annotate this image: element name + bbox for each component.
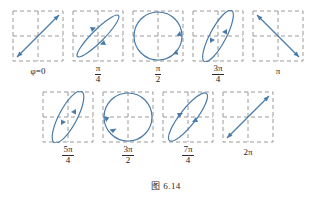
plot-phase-0 <box>12 10 64 62</box>
panel-label-phase-7pi-4: 7π 4 <box>154 145 222 165</box>
panel-phase-3pi-4: 3π 4 <box>192 10 244 62</box>
panel-row-bottom: 5π 4 3π 2 <box>42 91 274 143</box>
panel-phase-pi: π <box>252 10 304 62</box>
arrowhead-icon <box>110 129 117 134</box>
plot-phase-3pi-4 <box>192 10 244 62</box>
plot-phase-7pi-4 <box>162 91 214 143</box>
fraction: 3π 2 <box>121 145 134 165</box>
panel-label-phase-3pi-2: 3π 2 <box>94 145 162 165</box>
plot-phase-3pi-2 <box>102 91 154 143</box>
fraction-denominator: 2 <box>121 156 134 165</box>
panel-phase-3pi-2: 3π 2 <box>102 91 154 143</box>
fraction: 7π 4 <box>181 145 194 165</box>
plot-phase-pi <box>252 10 304 62</box>
fraction-numerator: 3π <box>121 145 134 154</box>
fraction-denominator: 4 <box>94 75 103 84</box>
fraction-denominator: 4 <box>211 75 224 84</box>
fraction-denominator: 4 <box>181 156 194 165</box>
plot-phase-5pi-4 <box>42 91 94 143</box>
arrowhead-icon <box>61 120 66 126</box>
lissajous-figure: φ=0 π 4 <box>0 0 332 201</box>
fraction-numerator: 5π <box>61 145 74 154</box>
arrowhead-icon <box>222 29 227 35</box>
fraction-numerator: π <box>154 64 163 73</box>
panel-label-phase-pi-4: π 4 <box>64 64 132 84</box>
arrowhead-icon <box>71 109 76 115</box>
plot-phase-pi-2 <box>132 10 184 62</box>
panel-phase-pi-2: π 2 <box>132 10 184 62</box>
plot-phase-2pi <box>222 91 274 143</box>
fraction-denominator: 2 <box>154 75 163 84</box>
panel-label-phase-5pi-4: 5π 4 <box>34 145 102 165</box>
fraction-denominator: 4 <box>61 156 74 165</box>
fraction-numerator: 7π <box>181 145 194 154</box>
fraction: 5π 4 <box>61 145 74 165</box>
fraction: π 2 <box>154 64 163 84</box>
panel-phase-pi-4: π 4 <box>72 10 124 62</box>
panel-phase-7pi-4: 7π 4 <box>162 91 214 143</box>
panel-label-phase-pi-2: π 2 <box>124 64 192 84</box>
panel-label-phase-3pi-4: 3π 4 <box>184 64 252 84</box>
panel-label-phase-pi: π <box>244 64 312 76</box>
fraction-numerator: 3π <box>211 64 224 73</box>
panel-label-phase-0: φ=0 <box>4 64 72 76</box>
panel-phase-5pi-4: 5π 4 <box>42 91 94 143</box>
panel-phase-0: φ=0 <box>12 10 64 62</box>
arrowhead-icon <box>104 117 109 123</box>
fraction: π 4 <box>94 64 103 84</box>
panel-label-phase-2pi: 2π <box>214 145 282 157</box>
panel-phase-2pi: 2π <box>222 91 274 143</box>
fraction: 3π 4 <box>211 64 224 84</box>
plot-phase-pi-4 <box>72 10 124 62</box>
panel-row-top: φ=0 π 4 <box>12 10 304 62</box>
fraction-numerator: π <box>94 64 103 73</box>
arrowhead-icon <box>210 38 215 44</box>
figure-caption: 图 6.14 <box>0 179 332 192</box>
